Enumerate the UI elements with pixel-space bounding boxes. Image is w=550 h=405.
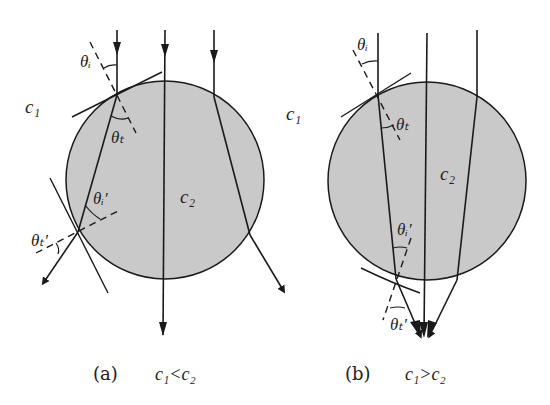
arrow-head-icon	[159, 322, 167, 336]
label-a-theta-i-prime: θᵢ′	[93, 189, 108, 208]
ray-a-middle	[163, 30, 165, 335]
arc-a-theta-t-prime	[56, 243, 59, 254]
label-a-theta-t: θₜ	[111, 128, 125, 147]
label-b-c1: c₁	[286, 103, 301, 124]
label-b-theta-t-prime: θₜ′	[390, 315, 407, 334]
caption-b-condition: c₁>c₂	[405, 364, 446, 384]
panel-a: c₁ c₂ θᵢ θₜ θᵢ′ θₜ′ (a) c₁<c₂	[25, 30, 283, 384]
arc-b-theta-i	[362, 61, 378, 64]
panel-b: c₁ c₂ θᵢ θₜ θᵢ′ θₜ′ (b) c₁>c₂	[286, 30, 526, 384]
arc-b-theta-t-prime	[390, 307, 405, 308]
arc-a-theta-i	[104, 65, 117, 68]
ray-a-right-exit	[250, 235, 283, 290]
label-b-theta-i: θᵢ	[357, 35, 368, 54]
label-a-theta-i: θᵢ	[80, 52, 91, 71]
label-b-theta-i-prime: θᵢ′	[397, 220, 412, 239]
arrow-head-icon	[161, 44, 169, 57]
refraction-diagram: c₁ c₂ θᵢ θₜ θᵢ′ θₜ′ (a) c₁<c₂	[0, 0, 550, 405]
caption-b-label: (b)	[345, 363, 371, 384]
arrow-head-icon	[113, 42, 121, 55]
label-b-theta-t: θₜ	[396, 115, 410, 134]
arrow-head-icon	[427, 320, 437, 338]
label-b-c2: c₂	[440, 163, 455, 184]
caption-a-condition: c₁<c₂	[155, 364, 196, 384]
caption-a-label: (a)	[93, 363, 118, 384]
label-a-theta-t-prime: θₜ′	[31, 231, 48, 250]
arrow-head-icon	[210, 50, 218, 63]
label-a-c1: c₁	[25, 96, 40, 117]
label-a-c2: c₂	[180, 186, 195, 207]
